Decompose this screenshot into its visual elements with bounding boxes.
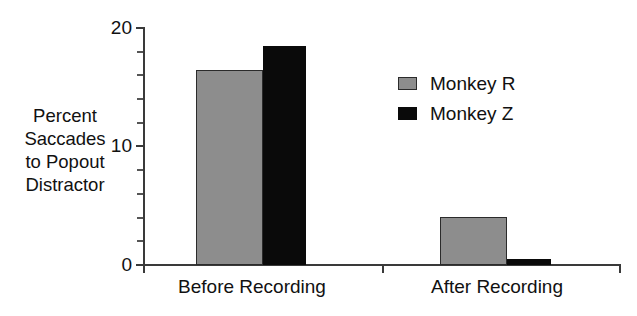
y-tick-major-10: [136, 145, 144, 147]
x-group-label-after: After Recording: [402, 276, 592, 298]
legend-item-monkey-r: Monkey R: [398, 68, 516, 98]
bar-after-monkey-r: [440, 217, 507, 265]
y-tick-minor-16: [137, 74, 143, 76]
y-tick-label-10: 10: [92, 136, 132, 155]
y-tick-major-20: [136, 27, 144, 29]
x-tick-group-divider: [382, 266, 384, 273]
y-tick-label-20: 20: [92, 18, 132, 37]
x-tick-right-edge: [619, 266, 621, 273]
x-group-label-before: Before Recording: [152, 276, 352, 298]
y-axis-title-line-1: Percent: [6, 104, 124, 127]
bar-before-monkey-z: [263, 46, 306, 265]
bar-chart-figure: Percent Saccades to Popout Distractor 20…: [0, 0, 637, 316]
y-tick-minor-8: [137, 169, 143, 171]
y-tick-label-0: 0: [92, 255, 132, 274]
y-tick-minor-12: [137, 122, 143, 124]
y-tick-minor-14: [137, 98, 143, 100]
legend-label-monkey-r: Monkey R: [430, 74, 516, 93]
legend: Monkey R Monkey Z: [398, 68, 516, 128]
y-tick-minor-4: [137, 217, 143, 219]
y-tick-minor-6: [137, 193, 143, 195]
legend-item-monkey-z: Monkey Z: [398, 98, 516, 128]
bar-after-monkey-z: [507, 259, 551, 265]
legend-swatch-icon-monkey-r: [398, 77, 417, 90]
legend-swatch-icon-monkey-z: [398, 107, 417, 120]
legend-label-monkey-z: Monkey Z: [430, 104, 513, 123]
y-axis-title-line-4: Distractor: [6, 173, 124, 196]
x-tick-left-edge: [143, 266, 145, 273]
bar-before-monkey-r: [196, 70, 263, 265]
y-tick-minor-18: [137, 51, 143, 53]
y-tick-minor-2: [137, 240, 143, 242]
